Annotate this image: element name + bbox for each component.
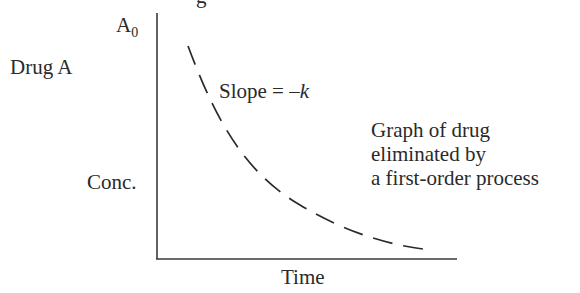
a0-label: A0 [116,14,138,39]
a0-subscript: 0 [131,25,138,40]
slope-k: k [300,79,309,103]
description-line-1: Graph of drug [371,118,539,142]
x-axis-label: Time [281,266,325,288]
series-label: Drug A [10,56,72,78]
description-line-3: a first-order process [371,166,539,190]
y-axis-label: Conc. [87,171,137,193]
graph-description: Graph of drug eliminated by a first-orde… [371,118,539,190]
description-line-2: eliminated by [371,142,539,166]
slope-label: Slope = –k [219,80,309,102]
